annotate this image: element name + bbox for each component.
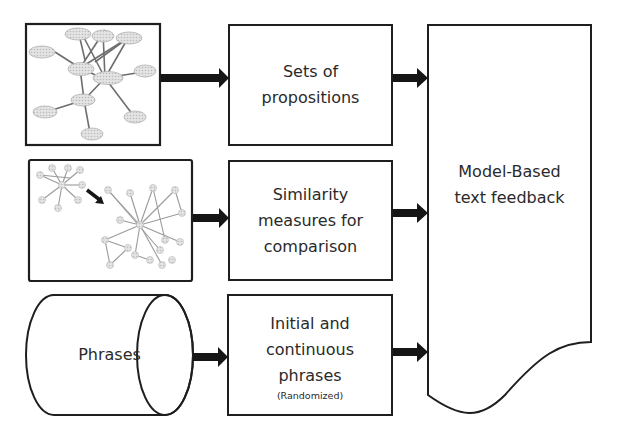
arrow-row3-right (393, 342, 428, 362)
similarity-label: Similarity measures for comparison (229, 161, 392, 280)
initial-phrases-label: Initial and continuous phrases (Randomiz… (228, 298, 392, 415)
feedback-label: Model-Based text feedback (428, 155, 591, 215)
randomized-note: (Randomized) (277, 389, 343, 403)
arrow-row2-left (193, 208, 229, 228)
phrases-label: Phrases (54, 330, 165, 380)
propositions-label: Sets of propositions (229, 25, 392, 145)
arrow-row1-left (161, 68, 229, 88)
graph-comparison-box (29, 160, 192, 281)
concept-map-box (26, 24, 160, 145)
arrow-row1-right (393, 68, 428, 88)
arrow-row2-right (393, 203, 428, 223)
arrow-row3-left (193, 347, 228, 367)
feedback-document-shape (428, 25, 591, 413)
